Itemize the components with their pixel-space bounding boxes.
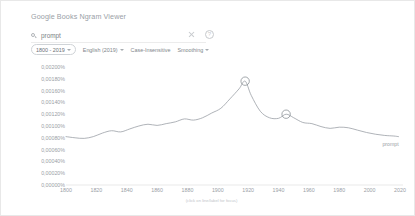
page-title: Google Books Ngram Viewer — [31, 12, 126, 21]
chart-plot-area[interactable] — [19, 61, 404, 197]
case-insensitive-chip-label: Case-Insensitive — [131, 47, 171, 53]
series-legend-label[interactable]: prompt — [382, 141, 398, 147]
corpus-chip-label: English (2019) — [83, 47, 118, 53]
header-icon-group: ? — [187, 30, 214, 39]
year-range-chip[interactable]: 1800 - 2019 — [31, 44, 76, 55]
year-range-chip-label: 1800 - 2019 — [36, 47, 65, 53]
x-tick-label: 1940 — [273, 187, 285, 193]
x-tick-label: 1880 — [182, 187, 194, 193]
x-tick-label: 1800 — [60, 187, 72, 193]
corpus-chip[interactable]: English (2019) — [83, 45, 124, 54]
x-tick-label: 1960 — [303, 187, 315, 193]
ngram-chart: 0,00200%0,00180%0,00160%0,00140%0,00120%… — [19, 61, 404, 211]
search-input[interactable]: prompt — [31, 30, 211, 41]
chart-footnote: (click on line/label for focus) — [19, 198, 404, 203]
case-insensitive-chip[interactable]: Case-Insensitive — [131, 45, 171, 54]
smoothing-chip-label: Smoothing — [177, 47, 203, 53]
x-tick-label: 2000 — [364, 187, 376, 193]
x-tick-label: 1980 — [333, 187, 345, 193]
x-tick-label: 2020 — [394, 187, 406, 193]
series-line-prompt — [66, 81, 398, 138]
search-underline — [31, 42, 206, 43]
x-tick-label: 1860 — [151, 187, 163, 193]
smoothing-chip[interactable]: Smoothing — [177, 45, 209, 54]
close-icon[interactable] — [187, 30, 196, 39]
annotation-markers — [241, 77, 290, 118]
x-tick-label: 1920 — [242, 187, 254, 193]
chevron-down-icon — [205, 49, 209, 51]
filter-chip-row: 1800 - 2019English (2019)Case-Insensitiv… — [31, 44, 209, 55]
x-tick-label: 1820 — [90, 187, 102, 193]
x-tick-label: 1840 — [121, 187, 133, 193]
x-tick-label: 1900 — [212, 187, 224, 193]
search-icon — [31, 33, 37, 39]
chevron-down-icon — [120, 49, 124, 51]
x-axis-labels: 1800182018401860188019001920194019601980… — [19, 185, 404, 197]
ngram-viewer-page: Google Books Ngram Viewer prompt ? 1800 … — [0, 0, 415, 216]
help-icon[interactable]: ? — [205, 30, 214, 39]
chevron-down-icon — [67, 49, 71, 51]
search-input-value: prompt — [41, 32, 61, 39]
